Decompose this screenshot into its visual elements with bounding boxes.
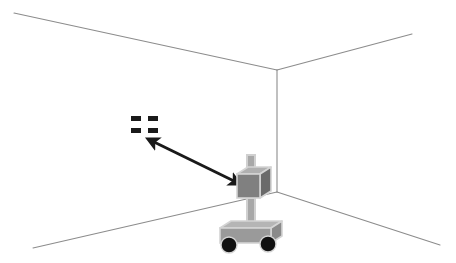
marker-cell	[131, 128, 141, 133]
marker-cell	[131, 116, 141, 121]
wheel-rear	[260, 236, 276, 252]
marker-cell	[148, 128, 158, 133]
room-interior-wireframe	[14, 13, 440, 248]
mobile-robot	[220, 155, 282, 253]
robot-marker-scene: Robot observing a fiducial marker in a r…	[0, 0, 456, 263]
floor-right-edge	[277, 192, 440, 245]
ceiling-right-edge	[277, 34, 412, 70]
camera-head	[237, 167, 271, 198]
observation-arrow	[152, 141, 236, 182]
camera-head-front-face	[237, 174, 260, 198]
ceiling-left-edge	[14, 13, 277, 70]
marker-cell	[148, 116, 158, 121]
scene-canvas	[0, 0, 456, 263]
wheel-front	[221, 237, 237, 253]
fiducial-marker	[131, 116, 158, 133]
observation-arrow-line	[152, 141, 236, 182]
